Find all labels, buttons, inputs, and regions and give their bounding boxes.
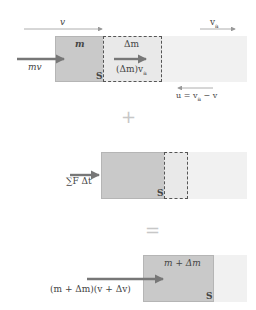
arrows-layer bbox=[0, 0, 256, 310]
